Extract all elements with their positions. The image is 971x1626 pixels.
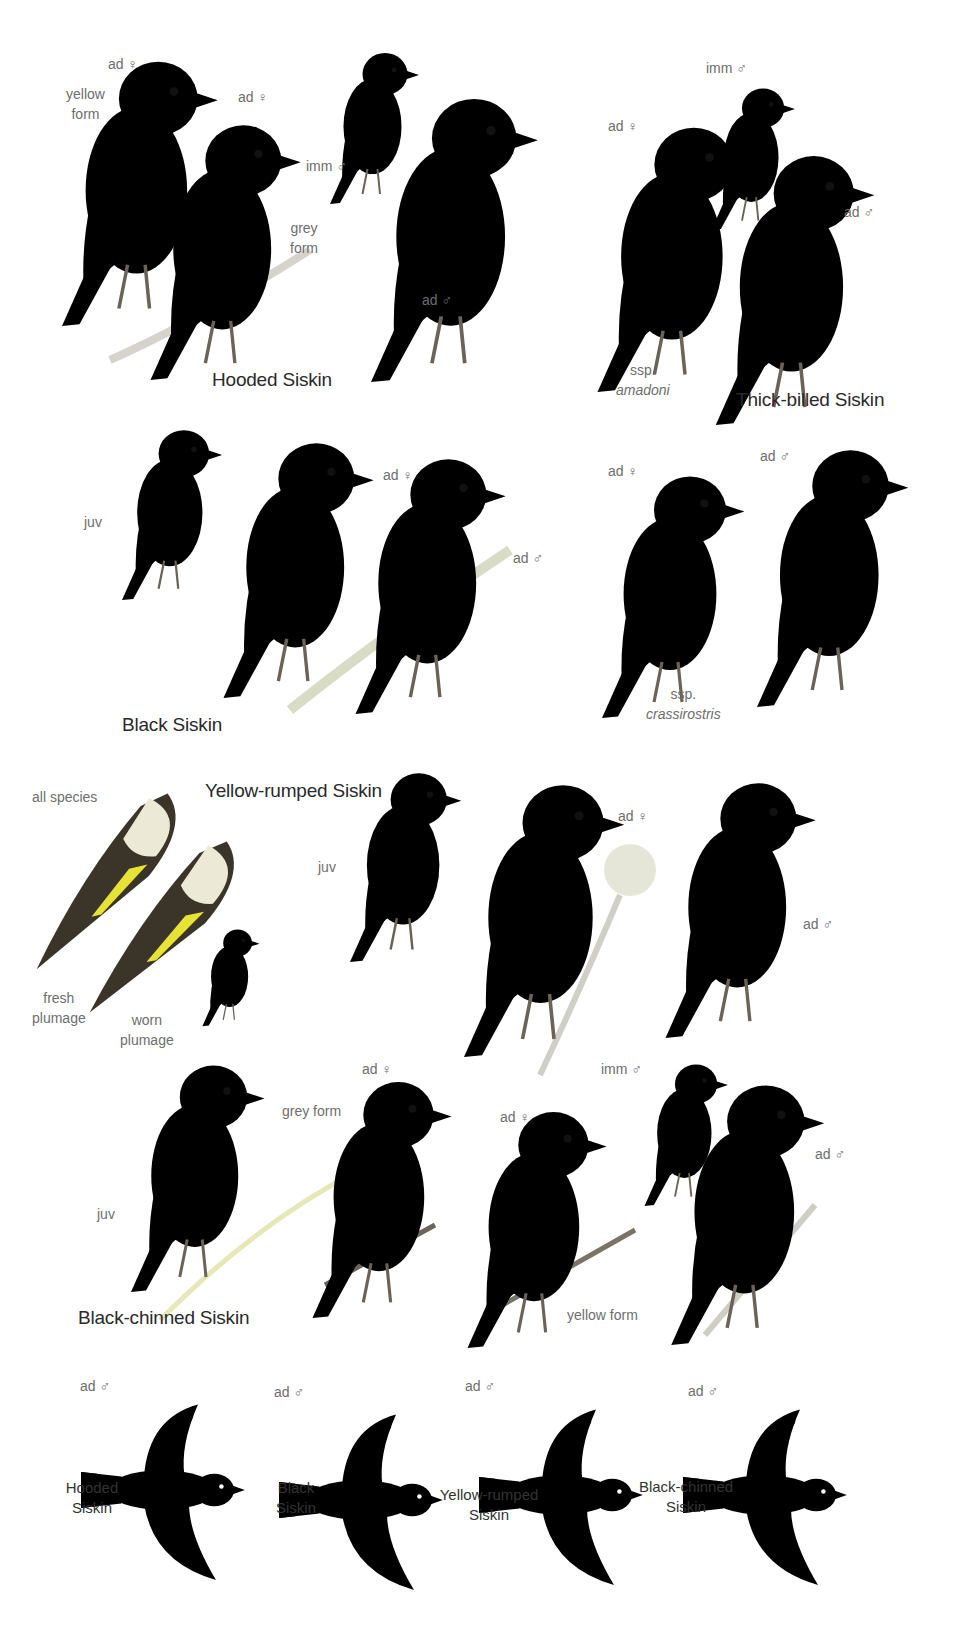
black-chinned-siskin-ad-male: [650, 1070, 830, 1345]
caption-line: Yellow-rumped: [440, 1486, 539, 1503]
label-line: crassirostris: [646, 706, 721, 722]
black-chinned-siskin-juv: [106, 1052, 276, 1292]
label-ssp-amadoni: ssp. amadoni: [616, 360, 670, 400]
label-ad-male: ad ♂: [465, 1376, 495, 1396]
yellow-rumped-siskin-ad-male: [628, 768, 838, 1038]
hooded-siskin-ad-female-grey-form: [128, 110, 308, 380]
species-title-thick-billed-siskin: Thick-billed Siskin: [736, 389, 884, 411]
caption-line: Hooded: [66, 1479, 119, 1496]
label-grey-form: grey form: [290, 218, 318, 258]
label-ad-male: ad ♂: [688, 1381, 718, 1401]
label-ad-female: ad ♀: [500, 1107, 530, 1127]
label-ad-male: ad ♂: [422, 290, 452, 310]
label-yellow-form: yellow form: [567, 1305, 638, 1325]
species-title-hooded-siskin: Hooded Siskin: [212, 369, 332, 391]
flight-caption-black-chinned-siskin: Black-chinned Siskin: [636, 1477, 736, 1517]
caption-line: Black: [278, 1479, 315, 1496]
label-ad-male: ad ♂: [815, 1144, 845, 1164]
label-line: ssp.: [630, 362, 656, 378]
label-line: grey: [290, 220, 317, 236]
flight-caption-yellow-rumped-siskin: Yellow-rumped Siskin: [436, 1485, 542, 1525]
label-grey-form: grey form: [282, 1101, 341, 1121]
label-line: worn: [132, 1012, 162, 1028]
label-fresh-plumage: fresh plumage: [32, 988, 86, 1028]
label-ad-female: ad ♀: [608, 461, 638, 481]
label-ssp-crassirostris: ssp. crassirostris: [646, 684, 721, 724]
caption-line: Black-chinned: [639, 1478, 733, 1495]
label-imm-male: imm ♂: [706, 58, 747, 78]
label-ad-female: ad ♀: [362, 1059, 392, 1079]
label-ad-male: ad ♂: [760, 446, 790, 466]
yellow-rumped-siskin-ad-female: [446, 768, 626, 1058]
hooded-siskin-ad-male: [346, 82, 546, 382]
label-line: ssp.: [670, 686, 696, 702]
label-ad-female: ad ♀: [238, 87, 268, 107]
label-ad-male: ad ♂: [513, 548, 543, 568]
label-line: plumage: [32, 1010, 86, 1026]
label-ad-male: ad ♂: [274, 1382, 304, 1402]
black-siskin-ad-male: [318, 444, 528, 714]
label-yellow-form: yellow form: [66, 84, 105, 124]
label-line: amadoni: [616, 382, 670, 398]
label-all-species: all species: [32, 787, 97, 807]
label-line: fresh: [43, 990, 74, 1006]
label-ad-female: ad ♀: [618, 806, 648, 826]
thick-billed-crassirostris-ad-male: [740, 426, 910, 716]
species-title-black-siskin: Black Siskin: [122, 714, 222, 736]
label-imm-male: imm ♂: [601, 1059, 642, 1079]
caption-line: Siskin: [72, 1499, 112, 1516]
caption-line: Siskin: [666, 1498, 706, 1515]
label-ad-female: ad ♀: [108, 54, 138, 74]
label-line: plumage: [120, 1032, 174, 1048]
flight-caption-black-siskin: Black Siskin: [266, 1478, 326, 1518]
label-juv: juv: [97, 1204, 115, 1224]
label-line: form: [290, 240, 318, 256]
label-line: form: [71, 106, 99, 122]
flight-caption-hooded-siskin: Hooded Siskin: [62, 1478, 122, 1518]
label-juv: juv: [318, 857, 336, 877]
label-ad-male: ad ♂: [844, 202, 874, 222]
label-ad-male: ad ♂: [80, 1376, 110, 1396]
label-line: yellow: [66, 86, 105, 102]
label-ad-female: ad ♀: [383, 465, 413, 485]
label-ad-male: ad ♂: [803, 914, 833, 934]
caption-line: Siskin: [276, 1499, 316, 1516]
label-ad-female: ad ♀: [608, 116, 638, 136]
small-siskin-on-twig: [196, 920, 260, 1030]
label-juv: juv: [84, 512, 102, 532]
caption-line: Siskin: [469, 1506, 509, 1523]
species-title-black-chinned-siskin: Black-chinned Siskin: [78, 1307, 249, 1329]
label-worn-plumage: worn plumage: [120, 1010, 174, 1050]
thick-billed-siskin-ad-male: [692, 140, 882, 425]
label-imm-male: imm ♂: [306, 156, 347, 176]
siskin-plate: /* color variants */ .v-yellowf .body{fi…: [0, 0, 971, 1626]
